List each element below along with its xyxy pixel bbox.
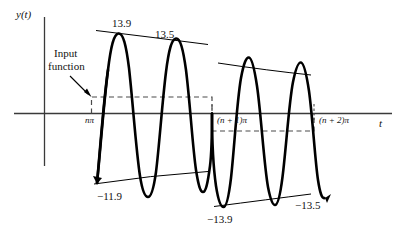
tick-label-n-plus-1-pi: (n + 1)π (217, 116, 247, 126)
axes-group (14, 17, 392, 166)
input-function-annotation-line2: function (48, 60, 85, 72)
input-function-annotation-line1: Input (54, 47, 77, 59)
peak-label-13-9: 13.9 (112, 17, 131, 29)
trough-label-minus-13-9: −13.9 (207, 213, 232, 225)
peak-label-13-5: 13.5 (155, 28, 174, 40)
figure-container: y(t) t Input function 13.9 13.5 −11.9 −1… (0, 0, 403, 232)
lower-envelope-1 (94, 172, 208, 185)
response-curve-group-2 (212, 57, 325, 207)
trough-label-minus-13-5: −13.5 (295, 199, 320, 211)
trough-label-minus-11-9: −11.9 (97, 190, 122, 202)
arrowhead-end-2 (325, 194, 331, 203)
tick-label-n-plus-2-pi: (n + 2)π (319, 116, 349, 126)
y-axis-label: y(t) (16, 8, 31, 20)
response-start-tail-1 (97, 70, 108, 183)
t-axis-label: t (379, 117, 382, 129)
input-function-leader (70, 76, 92, 97)
tick-label-n-pi: nπ (85, 116, 94, 126)
